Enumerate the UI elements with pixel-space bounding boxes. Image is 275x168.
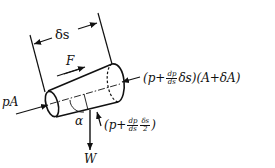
dimension-arrow-right [78, 23, 97, 29]
small-end-face [43, 90, 61, 118]
upstream-force-arrow [16, 105, 48, 114]
left-extension-line [30, 35, 45, 92]
centerline [50, 84, 120, 104]
angle-label: α [75, 115, 83, 127]
df-fraction: dpds [166, 71, 177, 86]
side-force-arrow [97, 112, 101, 126]
sf-close: ) [151, 118, 156, 132]
downstream-force-label: (p+dpdsδs)(A+δA) [143, 71, 240, 86]
weight-label: W [84, 153, 96, 165]
upstream-force-label: pA [2, 96, 18, 108]
sf-fraction-2: δs2 [140, 118, 150, 133]
shear-force-arrow-2 [64, 69, 80, 74]
right-extension-line [98, 13, 112, 64]
sf-fraction-1: dpds [127, 118, 138, 133]
sf-open: (p+ [104, 118, 126, 132]
large-end-face [112, 64, 124, 102]
dimension-arrow-left [34, 38, 52, 44]
length-label: δs [55, 28, 70, 41]
normal-line [84, 94, 88, 110]
side-force-label: (p+dpdsδs2) [104, 118, 156, 133]
df-open: (p+ [143, 71, 165, 85]
shear-force-label: F [66, 55, 74, 67]
df-tail: δs)(A+δA) [178, 71, 240, 85]
large-end-hidden [107, 64, 118, 102]
downstream-force-arrow [122, 77, 140, 82]
sf-frac1-den: ds [127, 126, 138, 133]
df-frac-den: ds [166, 79, 177, 86]
sf-frac2-den: 2 [140, 126, 150, 133]
